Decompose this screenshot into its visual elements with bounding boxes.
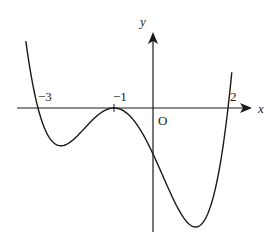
y-axis-label: y bbox=[138, 14, 146, 29]
tick-label-2: 2 bbox=[230, 89, 237, 104]
x-axis-label: x bbox=[257, 101, 264, 116]
function-graph: x y O −3 −1 2 bbox=[0, 0, 275, 248]
curve bbox=[26, 41, 232, 227]
origin-label: O bbox=[158, 113, 167, 128]
tick-label-minus-1: −1 bbox=[113, 89, 127, 104]
tick-label-minus-3: −3 bbox=[38, 89, 52, 104]
